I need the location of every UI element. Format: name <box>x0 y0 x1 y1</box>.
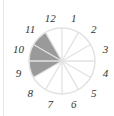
sector-label-4: 4 <box>103 67 109 79</box>
sector-label-12: 12 <box>45 12 57 24</box>
fraction-circle: 121234567891011 <box>0 0 114 116</box>
sector-label-8: 8 <box>27 87 33 99</box>
sector-label-6: 6 <box>71 98 77 110</box>
sector-label-10: 10 <box>13 43 25 55</box>
sector-label-7: 7 <box>48 98 54 110</box>
sector-label-3: 3 <box>102 43 109 55</box>
sector-label-1: 1 <box>71 12 77 24</box>
sector-label-5: 5 <box>91 87 97 99</box>
sector-label-9: 9 <box>16 67 22 79</box>
sector-label-11: 11 <box>25 23 35 35</box>
sector-label-2: 2 <box>91 23 97 35</box>
